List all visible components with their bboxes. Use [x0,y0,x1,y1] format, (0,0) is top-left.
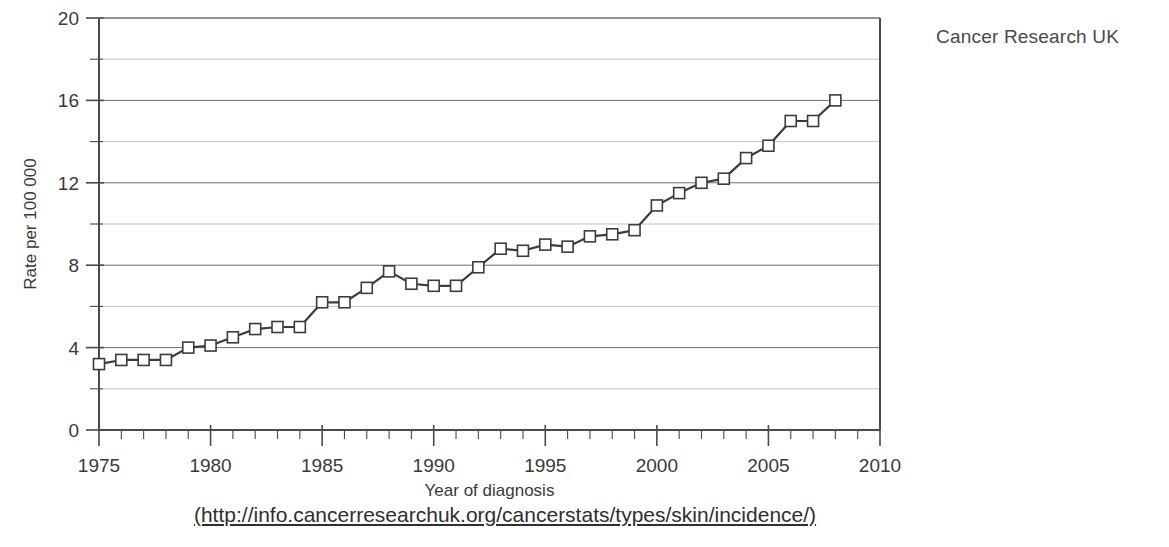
y-tick-label: 12 [58,173,79,194]
data-series [94,95,841,370]
data-point-marker [205,340,216,351]
y-tick-label: 20 [58,8,79,29]
axis-titles: Rate per 100 000Year of diagnosis [21,158,554,500]
y-tick-label: 4 [68,338,79,359]
series-line-path [99,100,835,364]
data-point-marker [517,245,528,256]
data-point-marker [250,324,261,335]
data-point-marker [138,354,149,365]
data-point-marker [94,359,105,370]
data-point-marker [428,280,439,291]
y-tick-label: 8 [68,255,79,276]
data-point-marker [584,231,595,242]
data-point-marker [495,243,506,254]
axis-tick-labels: 0481216201975198019851990199520002005201… [58,8,901,476]
y-tick-label: 16 [58,90,79,111]
data-point-marker [674,188,685,199]
data-point-marker [294,322,305,333]
data-point-marker [406,278,417,289]
x-tick-label: 1980 [189,455,231,476]
data-point-marker [339,297,350,308]
data-point-marker [540,239,551,250]
data-point-marker [607,229,618,240]
y-tick-label: 0 [68,420,79,441]
data-point-marker [272,322,283,333]
source-url-link[interactable]: (http://info.cancerresearchuk.org/cancer… [0,503,1010,527]
x-axis-title: Year of diagnosis [425,481,555,500]
data-point-marker [629,225,640,236]
x-tick-label: 2005 [747,455,789,476]
x-tick-label: 1990 [413,455,455,476]
chart-svg: 0481216201975198019851990199520002005201… [0,0,1169,547]
data-point-marker [562,241,573,252]
data-point-marker [227,332,238,343]
data-point-marker [785,116,796,127]
data-point-marker [696,177,707,188]
data-point-marker [183,342,194,353]
data-point-marker [384,266,395,277]
data-point-marker [160,354,171,365]
x-tick-label: 2000 [636,455,678,476]
data-point-marker [763,140,774,151]
data-point-marker [361,282,372,293]
y-axis-title: Rate per 100 000 [21,158,40,289]
major-gridlines [99,18,880,348]
data-point-marker [808,116,819,127]
data-point-marker [317,297,328,308]
x-tick-label: 1995 [524,455,566,476]
axis-ticks [86,18,880,446]
data-point-marker [451,280,462,291]
data-point-marker [473,262,484,273]
data-point-marker [741,153,752,164]
data-point-marker [718,173,729,184]
x-tick-label: 2010 [859,455,901,476]
data-point-marker [116,354,127,365]
data-point-marker [651,200,662,211]
line-chart-figure: 0481216201975198019851990199520002005201… [0,0,1169,547]
data-point-marker [830,95,841,106]
x-tick-label: 1975 [78,455,120,476]
x-tick-label: 1985 [301,455,343,476]
chart-page: Cancer Research UK 048121620197519801985… [0,0,1169,547]
